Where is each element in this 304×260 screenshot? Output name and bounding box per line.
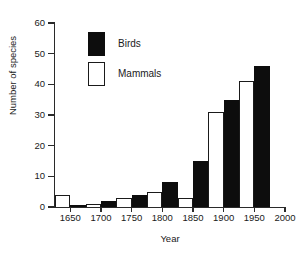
bar-mammals-1775 — [147, 192, 162, 207]
y-tick-label: 10 — [34, 172, 45, 182]
bar-birds-1900 — [224, 100, 239, 207]
x-tick-label: 1950 — [244, 213, 265, 223]
x-tick-1950: 1950 — [254, 207, 255, 212]
x-tick-1750: 1750 — [131, 207, 132, 212]
bar-birds-1700 — [101, 201, 116, 207]
legend-swatch-mammals-icon — [88, 62, 105, 86]
y-tick-label: 0 — [40, 202, 45, 212]
y-tick-30: 30 — [48, 114, 54, 115]
x-axis-title: Year — [55, 233, 285, 244]
bar-mammals-1825 — [178, 198, 193, 207]
bar-mammals-1925 — [239, 81, 254, 207]
x-tick-label: 1900 — [213, 213, 234, 223]
y-tick-60: 60 — [48, 22, 54, 23]
bar-mammals-1725 — [116, 198, 131, 207]
species-extinction-bar-chart: 0102030405060 16501700175018001850190019… — [0, 0, 304, 260]
y-tick-label: 40 — [34, 80, 45, 90]
x-tick-label: 1750 — [121, 213, 142, 223]
y-tick-0: 0 — [48, 206, 54, 207]
x-tick-1700: 1700 — [100, 207, 101, 212]
x-tick-label: 2000 — [274, 213, 295, 223]
x-tick-label: 1850 — [182, 213, 203, 223]
bar-birds-1650 — [70, 205, 85, 207]
bar-birds-1750 — [132, 195, 147, 207]
x-tick-label: 1700 — [90, 213, 111, 223]
y-tick-10: 10 — [48, 176, 54, 177]
y-tick-20: 20 — [48, 145, 54, 146]
x-tick-1900: 1900 — [223, 207, 224, 212]
bar-mammals-1875 — [208, 112, 223, 207]
bar-mammals-1625 — [55, 195, 70, 207]
bar-birds-1800 — [162, 182, 177, 207]
legend-swatch-birds-icon — [88, 32, 105, 56]
x-tick-1850: 1850 — [192, 207, 193, 212]
y-tick-label: 50 — [34, 49, 45, 59]
y-tick-label: 20 — [34, 141, 45, 151]
y-tick-50: 50 — [48, 53, 54, 54]
y-tick-40: 40 — [48, 84, 54, 85]
x-tick-1650: 1650 — [70, 207, 71, 212]
x-tick-1800: 1800 — [162, 207, 163, 212]
bar-birds-1850 — [193, 161, 208, 207]
legend-label-mammals: Mammals — [118, 69, 161, 79]
x-tick-label: 1650 — [60, 213, 81, 223]
x-tick-2000: 2000 — [284, 207, 285, 212]
x-tick-label: 1800 — [152, 213, 173, 223]
y-axis-title: Number of species — [7, 16, 18, 136]
bar-birds-1950 — [254, 66, 269, 207]
bar-mammals-1675 — [86, 204, 101, 207]
y-tick-label: 60 — [34, 18, 45, 28]
y-tick-label: 30 — [34, 110, 45, 120]
legend-label-birds: Birds — [118, 39, 141, 49]
